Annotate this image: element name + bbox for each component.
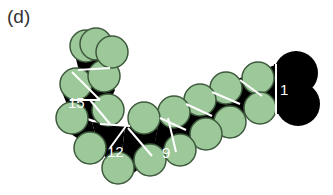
unit-label-1: 1 bbox=[280, 81, 288, 98]
helical-chain-diagram: 1 9 12 15 bbox=[0, 0, 333, 195]
unit-label-9: 9 bbox=[162, 144, 170, 161]
unit-label-12: 12 bbox=[107, 143, 124, 160]
unit-label-15: 15 bbox=[68, 94, 85, 111]
